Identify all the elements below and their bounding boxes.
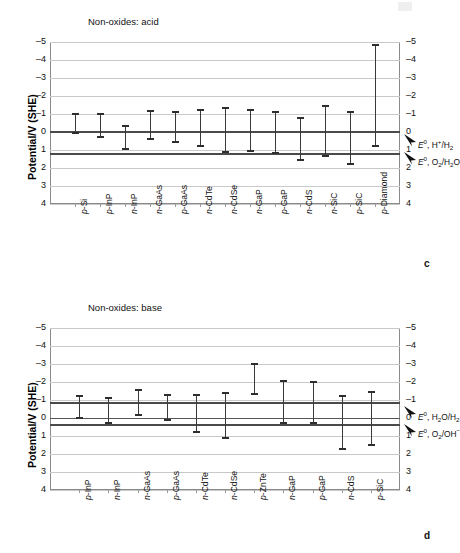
x-tick xyxy=(108,490,109,493)
bar-cap-top xyxy=(372,44,379,46)
y-tick-right--4: –4 xyxy=(406,341,426,350)
bar-cap-top xyxy=(122,125,129,127)
bar-cap-bottom xyxy=(135,414,142,416)
bar-cap-bottom xyxy=(76,417,83,419)
band-gap-bar xyxy=(325,106,326,156)
y-tick-left-4: 4 xyxy=(26,485,46,494)
bar-cap-top xyxy=(272,111,279,113)
bar-cap-top xyxy=(322,105,329,107)
bar-cap-bottom xyxy=(172,141,179,143)
chart-title-acid: Non-oxides: acid xyxy=(88,16,159,27)
x-tick xyxy=(100,204,101,207)
x-tick xyxy=(313,490,314,493)
gridline--2 xyxy=(50,96,400,97)
y-tick-right--3: –3 xyxy=(406,359,426,368)
band-gap-bar xyxy=(125,126,126,149)
y-tick-left-0: 0 xyxy=(26,413,46,422)
x-tick xyxy=(75,204,76,207)
bar-cap-bottom xyxy=(347,163,354,165)
x-tick xyxy=(175,204,176,207)
panel-letter-c: c xyxy=(424,258,430,269)
y-tick-right--4: –4 xyxy=(406,55,426,64)
x-axis-label: p-GaAs xyxy=(179,185,189,214)
band-gap-bar xyxy=(283,381,284,422)
bar-cap-top xyxy=(247,109,254,111)
bar-cap-top xyxy=(172,111,179,113)
gridline--3 xyxy=(50,364,400,365)
x-axis-label: n-CdS xyxy=(304,190,314,214)
y-tick-left-2: 2 xyxy=(26,163,46,172)
band-gap-bar xyxy=(375,45,376,146)
y-tick-right-4: 4 xyxy=(406,485,426,494)
x-axis-label: p-SiC xyxy=(375,479,385,501)
pointer-arrow-o2-h2o xyxy=(403,151,419,169)
x-axis-label: n-GaAs xyxy=(154,185,164,214)
x-tick xyxy=(196,490,197,493)
band-gap-bar xyxy=(371,392,372,445)
y-tick-right--5: –5 xyxy=(406,37,426,46)
y-tick-left--1: –1 xyxy=(26,109,46,118)
bar-cap-bottom xyxy=(222,437,229,439)
gridline--5 xyxy=(50,328,400,329)
x-tick xyxy=(275,204,276,207)
bar-cap-top xyxy=(197,109,204,111)
x-axis-label: n-CdSe xyxy=(229,185,239,214)
bar-cap-bottom xyxy=(272,152,279,154)
scan-artifact xyxy=(398,2,412,11)
bar-cap-top xyxy=(147,110,154,112)
x-axis-label: n-CdTe xyxy=(200,472,210,500)
x-tick xyxy=(200,204,201,207)
pointer-arrow-h-plus-h2 xyxy=(403,133,419,151)
panel-letter-d: d xyxy=(424,530,430,541)
panel-non-oxides-acid: Non-oxides: acid Potential/V (SHE) –5–5–… xyxy=(0,0,446,280)
band-gap-bar xyxy=(175,112,176,142)
bar-cap-bottom xyxy=(368,444,375,446)
bar-cap-bottom xyxy=(72,132,79,134)
band-gap-bar xyxy=(108,398,109,423)
x-axis-label: p-GaP xyxy=(317,475,327,500)
bar-cap-bottom xyxy=(310,422,317,424)
x-tick xyxy=(300,204,301,207)
bar-cap-bottom xyxy=(322,155,329,157)
bar-cap-top xyxy=(368,391,375,393)
bar-cap-bottom xyxy=(251,393,258,395)
y-tick-right-2: 2 xyxy=(406,449,426,458)
y-tick-right-3: 3 xyxy=(406,467,426,476)
band-gap-bar xyxy=(138,390,139,415)
x-tick xyxy=(283,490,284,493)
bar-cap-bottom xyxy=(193,431,200,433)
gridline--3 xyxy=(50,78,400,79)
gridline-3 xyxy=(50,186,400,187)
bar-cap-bottom xyxy=(122,148,129,150)
band-gap-bar xyxy=(100,114,101,137)
gridline-2 xyxy=(50,454,400,455)
y-tick-left--1: –1 xyxy=(26,395,46,404)
x-axis-label: n-CdSe xyxy=(229,471,239,500)
x-axis-label: n-GaP xyxy=(287,475,297,500)
band-gap-bar xyxy=(150,111,151,139)
bar-cap-bottom xyxy=(372,145,379,147)
pointer-arrow-h2o-h2 xyxy=(403,405,419,423)
x-tick xyxy=(225,490,226,493)
bar-cap-bottom xyxy=(147,138,154,140)
x-axis-label: p-Diamond xyxy=(379,172,389,214)
y-tick-left-2: 2 xyxy=(26,449,46,458)
bar-cap-top xyxy=(222,107,229,109)
y-tick-left--2: –2 xyxy=(26,377,46,386)
bar-cap-top xyxy=(193,394,200,396)
x-tick xyxy=(325,204,326,207)
reference-label-o2-oh: E0, O2/OH− xyxy=(418,427,460,440)
x-axis-label: n-InP xyxy=(112,479,122,500)
y-tick-right-4: 4 xyxy=(406,199,426,208)
bar-cap-bottom xyxy=(280,422,287,424)
y-tick-right-3: 3 xyxy=(406,181,426,190)
band-gap-bar xyxy=(167,395,168,420)
x-axis-label: n-CdTe xyxy=(204,186,214,214)
y-tick-left--4: –4 xyxy=(26,55,46,64)
y-tick-left-1: 1 xyxy=(26,431,46,440)
bar-cap-bottom xyxy=(247,150,254,152)
y-tick-left--3: –3 xyxy=(26,359,46,368)
x-axis-label: p-SiC xyxy=(354,193,364,215)
x-tick xyxy=(138,490,139,493)
band-gap-bar xyxy=(275,112,276,153)
